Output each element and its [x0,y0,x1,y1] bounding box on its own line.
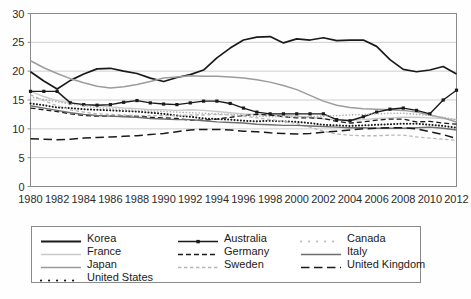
ytick-label-20: 20 [12,65,24,77]
legend-swatch-korea [40,233,82,244]
series-marker [362,115,365,118]
legend-item-germany[interactable]: Germany [169,246,292,257]
legend-swatch-japan [40,259,82,270]
xtick-label-1990: 1990 [151,193,175,205]
xtick-label-1994: 1994 [205,193,229,205]
xtick-label-2004: 2004 [338,193,362,205]
series-marker [455,89,458,92]
xtick-label-1984: 1984 [72,193,96,205]
legend-swatch-sweden [177,259,219,270]
ytick-label-10: 10 [12,123,24,135]
legend-item-united-kingdom[interactable]: United Kingdom [292,259,422,270]
series-marker [415,109,418,112]
xtick-label-2008: 2008 [391,193,415,205]
ytick-label-15: 15 [12,94,24,106]
line-chart: 0510152025301980198219841986198819901992… [0,0,471,215]
legend-item-australia[interactable]: Australia [169,233,292,244]
legend-label-canada: Canada [347,233,386,244]
legend-label-italy: Italy [347,246,367,257]
legend-swatch-canada [300,233,342,244]
xtick-label-1996: 1996 [231,193,255,205]
xtick-label-1992: 1992 [178,193,202,205]
legend-swatch-australia [177,233,219,244]
series-marker [95,104,98,107]
series-marker [135,99,138,102]
ytick-label-5: 5 [18,152,24,164]
legend-item-japan[interactable]: Japan [32,259,169,270]
series-marker [295,112,298,115]
ytick-label-0: 0 [18,181,24,193]
legend-label-korea: Korea [87,233,116,244]
series-marker [308,112,311,115]
chart-canvas: 0510152025301980198219841986198819901992… [0,0,471,215]
legend-swatch-united-kingdom [300,259,342,270]
series-marker [388,108,391,111]
series-marker [402,106,405,109]
series-marker [242,106,245,109]
series-marker [162,102,165,105]
chart-legend: KoreaAustraliaCanadaFranceGermanyItalyJa… [31,226,421,283]
legend-item-canada[interactable]: Canada [292,233,422,244]
series-marker [42,90,45,93]
series-marker [215,100,218,103]
xtick-label-2010: 2010 [418,193,442,205]
legend-item-sweden[interactable]: Sweden [169,259,292,270]
series-marker [122,101,125,104]
series-marker [29,90,32,93]
xtick-label-2012: 2012 [444,193,468,205]
series-marker [189,101,192,104]
legend-item-italy[interactable]: Italy [292,246,422,257]
xtick-label-1980: 1980 [18,193,42,205]
series-marker [442,98,445,101]
legend-item-france[interactable]: France [32,246,169,257]
series-marker [56,90,59,93]
legend-label-japan: Japan [87,259,117,270]
legend-item-united-states[interactable]: United States [32,272,169,283]
legend-swatch-united-states [40,272,82,283]
legend-label-united-kingdom: United Kingdom [347,259,425,270]
series-marker [348,119,351,122]
series-marker [109,103,112,106]
legend-item-korea[interactable]: Korea [32,233,169,244]
series-marker [202,100,205,103]
xtick-label-1998: 1998 [258,193,282,205]
legend-swatch-germany [177,246,219,257]
legend-label-sweden: Sweden [224,259,264,270]
series-marker [282,112,285,115]
series-line-korea [31,37,457,89]
series-marker [149,101,152,104]
legend-marker-australia [196,240,199,243]
legend-label-france: France [87,246,121,257]
legend-grid: KoreaAustraliaCanadaFranceGermanyItalyJa… [32,232,420,284]
series-marker [322,112,325,115]
legend-label-united-states: United States [87,272,153,283]
xtick-label-2006: 2006 [364,193,388,205]
series-marker [229,102,232,105]
legend-label-australia: Australia [224,233,267,244]
xtick-label-1986: 1986 [98,193,122,205]
series-marker [175,103,178,106]
legend-swatch-france [40,246,82,257]
xtick-label-2002: 2002 [311,193,335,205]
xtick-label-1988: 1988 [125,193,149,205]
series-group [29,37,458,141]
series-line-united-kingdom [31,128,457,140]
chart-page: 0510152025301980198219841986198819901992… [0,0,471,299]
legend-label-germany: Germany [224,246,269,257]
ytick-label-25: 25 [12,36,24,48]
xtick-label-1982: 1982 [45,193,69,205]
legend-swatch-italy [300,246,342,257]
series-marker [255,111,258,114]
xtick-label-2000: 2000 [285,193,309,205]
ytick-label-30: 30 [12,8,24,20]
